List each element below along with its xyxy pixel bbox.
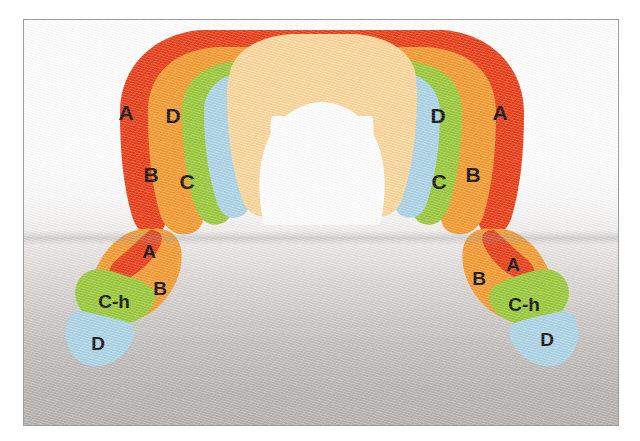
label-arch-right-c: C bbox=[431, 170, 446, 193]
label-arch-right-d: D bbox=[430, 104, 445, 127]
lower-left-group: A B C-h D bbox=[66, 228, 182, 366]
label-lr-a: A bbox=[506, 254, 520, 275]
label-arch-left-c: C bbox=[179, 170, 194, 193]
label-arch-left-a: A bbox=[118, 101, 133, 124]
label-lr-d: D bbox=[540, 329, 554, 350]
label-arch-right-a: A bbox=[492, 101, 507, 124]
label-ll-ch: C-h bbox=[98, 291, 130, 312]
label-lr-b: B bbox=[472, 268, 486, 289]
label-ll-d: D bbox=[91, 333, 105, 354]
photo-frame: A D B C D A C B A B bbox=[23, 19, 619, 426]
label-lr-ch: C-h bbox=[508, 294, 540, 315]
upper-arch-group: A D B C D A C B bbox=[118, 30, 524, 234]
label-arch-left-d: D bbox=[165, 104, 180, 127]
label-arch-right-b: B bbox=[465, 163, 480, 186]
screenshot-root: A D B C D A C B A B bbox=[0, 0, 640, 441]
label-arch-left-b: B bbox=[143, 163, 158, 186]
upper-arch-inner-notch bbox=[259, 102, 384, 225]
anatomical-diagram: A D B C D A C B A B bbox=[24, 20, 619, 426]
label-ll-b: B bbox=[153, 278, 167, 299]
label-ll-a: A bbox=[142, 241, 156, 262]
lower-right-group: A B C-h D bbox=[462, 228, 578, 366]
